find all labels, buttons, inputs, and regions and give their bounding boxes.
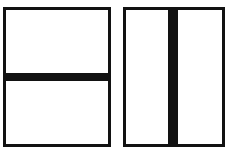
horizontal-divider-bar [6,73,108,81]
figure-right-caption [126,10,127,11]
figure-left-caption [6,10,7,11]
vertical-divider-bar [168,10,178,144]
rectangle-with-vertical-divider [123,7,225,147]
rectangle-with-horizontal-divider [3,7,111,147]
diagram-canvas [0,0,229,152]
